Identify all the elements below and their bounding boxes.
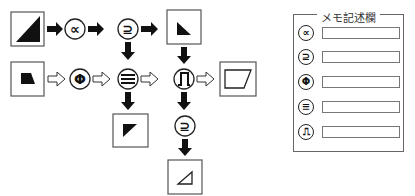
symbol-superset-2: ⊇ (175, 116, 195, 136)
box-start-top (11, 12, 44, 46)
superset-symbol-icon: ⊇ (298, 49, 314, 65)
memo-input-proportional[interactable] (322, 27, 400, 39)
superset-symbol-icon: ⊇ (123, 22, 134, 37)
memo-input-identical[interactable] (322, 101, 400, 113)
symbol-superset-1: ⊇ (118, 19, 138, 39)
identical-symbol-icon: ≡ (298, 99, 314, 115)
hollow-arrow-right-icon (197, 72, 214, 86)
solid-arrow-down-icon (177, 47, 191, 64)
solid-arrow-right-icon (47, 22, 63, 36)
symbol-phi: Φ (70, 69, 90, 89)
box-start-left (11, 62, 44, 96)
hollow-arrow-right-icon (48, 72, 65, 86)
proportional-symbol-icon: ∝ (70, 21, 80, 37)
solid-arrow-down-icon (178, 139, 192, 156)
solid-arrow-down-icon (121, 92, 135, 110)
symbol-proportional: ∝ (65, 19, 85, 39)
memo-row-identical: ≡ (298, 99, 401, 117)
identical-line (121, 74, 135, 76)
memo-row-superset: ⊇ (298, 49, 401, 67)
box-result-bottom (168, 160, 202, 194)
symbol-identical (118, 69, 138, 89)
memo-row-pulse: ⎍ (298, 124, 401, 142)
memo-input-pulse[interactable] (322, 126, 400, 138)
pulse-symbol-icon: ⎍ (298, 124, 314, 140)
solid-arrow-right-icon (88, 22, 104, 36)
hollow-arrow-right-icon (141, 72, 158, 86)
box-result-top-right (167, 10, 201, 44)
memo-row-proportional: ∝ (298, 25, 401, 43)
memo-title: メモ記述欄 (317, 12, 380, 25)
proportional-symbol-icon: ∝ (298, 25, 314, 41)
hollow-arrow-right-icon (93, 72, 110, 86)
memo-panel: メモ記述欄 ∝ ⊇ Φ ≡ ⎍ (293, 14, 404, 152)
phi-symbol-icon: Φ (74, 71, 86, 87)
solid-arrow-down-icon (121, 42, 135, 60)
memo-input-superset[interactable] (322, 51, 400, 63)
box-result-right (220, 62, 256, 96)
solid-arrow-right-icon (141, 22, 158, 36)
superset-symbol-icon: ⊇ (180, 119, 191, 134)
solid-arrow-down-icon (177, 92, 191, 110)
identical-line (121, 82, 135, 84)
memo-row-phi: Φ (298, 74, 401, 92)
memo-input-phi[interactable] (322, 76, 400, 88)
symbol-pulse (174, 69, 194, 89)
identical-line (121, 78, 135, 80)
phi-symbol-icon: Φ (298, 74, 314, 90)
box-result-below-identical (113, 114, 148, 147)
